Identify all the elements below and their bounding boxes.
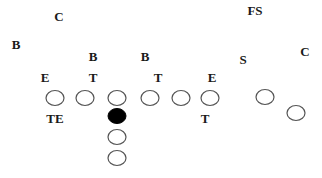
- corner-right-label: C: [300, 44, 309, 59]
- guard-left-circle: [108, 91, 126, 106]
- free-safety-label: FS: [247, 3, 262, 18]
- football-formation-diagram: CFSBBBSCETTE TET: [0, 0, 322, 178]
- tackle-left-label: T: [89, 70, 98, 85]
- offense-labels: TET: [46, 111, 209, 126]
- wide-receiver-circle: [287, 106, 305, 121]
- guard-right-circle: [141, 91, 159, 106]
- tight-end-label-label: TE: [46, 111, 63, 126]
- tackle-right-label: T: [154, 70, 163, 85]
- strong-safety-label: S: [239, 52, 246, 67]
- backer-left-label: B: [89, 49, 98, 64]
- fullback-circle: [108, 130, 126, 145]
- end-right-circle: [201, 91, 219, 106]
- center-circle: [108, 109, 126, 124]
- tackle-left-circle: [76, 91, 94, 106]
- slot-receiver-circle: [256, 90, 274, 105]
- tackle-label-label: T: [201, 111, 210, 126]
- defense-labels: CFSBBBSCETTE: [12, 3, 310, 85]
- offense-players: [46, 90, 305, 166]
- backer-right-label: B: [141, 49, 150, 64]
- corner-left-label: C: [54, 9, 63, 24]
- backer-outside-left-label: B: [12, 37, 21, 52]
- end-left-label: E: [41, 70, 50, 85]
- tight-end-left-circle: [46, 91, 64, 106]
- tailback-circle: [108, 151, 126, 166]
- end-right-label: E: [208, 70, 217, 85]
- tackle-right-circle: [172, 91, 190, 106]
